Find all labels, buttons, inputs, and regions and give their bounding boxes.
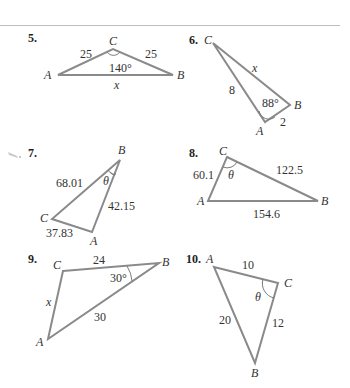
side-cb: 122.5 <box>276 163 303 177</box>
side-ab: 2 <box>280 115 286 129</box>
side-ba: 42.15 <box>108 199 135 213</box>
angle-label: θ <box>103 174 109 188</box>
side-ca: x <box>45 295 52 309</box>
pencil-mark-icon <box>8 152 18 158</box>
pencil-dot <box>19 156 21 158</box>
side-cb: 12 <box>272 316 284 330</box>
vertex-a: A <box>255 124 264 138</box>
problem-number: 5. <box>28 31 37 45</box>
vertex-b: B <box>321 194 329 208</box>
problem-number: 10. <box>186 252 201 266</box>
problem-6: 6. C B A x 8 88° 2 <box>189 33 302 138</box>
vertex-a: A <box>196 194 205 208</box>
vertex-b: B <box>294 98 302 112</box>
angle-label: θ <box>228 168 234 182</box>
problem-number: 6. <box>189 33 198 47</box>
side-ab: 30 <box>94 310 106 324</box>
side-ac: 60.1 <box>193 168 214 182</box>
angle-arc <box>127 266 132 281</box>
angle-label: θ <box>255 290 261 304</box>
vertex-c: C <box>109 34 118 48</box>
angle-label: 140° <box>109 61 132 75</box>
problem-10: 10. A 10 C θ 20 12 B <box>186 252 293 380</box>
vertex-a: A <box>89 234 98 248</box>
vertex-b: B <box>177 68 185 82</box>
side-ab: 154.6 <box>253 207 280 221</box>
vertex-b: B <box>118 143 126 157</box>
vertex-c: C <box>219 144 228 158</box>
vertex-c: C <box>53 258 62 272</box>
side-ac: 25 <box>80 47 92 61</box>
side-ca: 8 <box>229 83 235 97</box>
vertex-c: C <box>284 276 293 290</box>
side-ac: 10 <box>242 258 254 272</box>
problem-number: 9. <box>28 252 37 266</box>
problem-5: 5. C A B 25 25 140° x <box>28 31 185 92</box>
problem-7: 7. B C A 68.01 θ 42.15 37.83 <box>28 143 135 248</box>
exercise-figures: 5. C A B 25 25 140° x 6. C B A x 8 88° 2… <box>0 0 350 388</box>
problem-9: 9. C 24 B 30° x 30 A <box>28 252 170 349</box>
side-ca: 37.83 <box>46 226 73 240</box>
problem-8: 8. C 60.1 θ 122.5 A B 154.6 <box>189 144 329 221</box>
vertex-a: A <box>43 68 52 82</box>
side-cb: 25 <box>145 47 157 61</box>
side-cb: 24 <box>93 253 105 267</box>
vertex-b: B <box>162 255 170 269</box>
triangle <box>213 43 290 122</box>
angle-label: 88° <box>262 96 279 110</box>
angle-label: 30° <box>110 271 127 285</box>
problem-number: 7. <box>28 146 37 160</box>
side-cb: 68.01 <box>56 176 83 190</box>
vertex-b: B <box>251 366 259 380</box>
side-cb: x <box>251 61 258 75</box>
vertex-a: A <box>205 252 214 266</box>
triangle <box>48 263 159 339</box>
side-ab: x <box>113 78 120 92</box>
vertex-c: C <box>204 33 213 47</box>
vertex-a: A <box>35 335 44 349</box>
side-ab: 20 <box>219 313 231 327</box>
problem-number: 8. <box>189 146 198 160</box>
vertex-c: C <box>40 211 49 225</box>
triangle <box>52 160 120 232</box>
angle-arc <box>107 52 120 55</box>
